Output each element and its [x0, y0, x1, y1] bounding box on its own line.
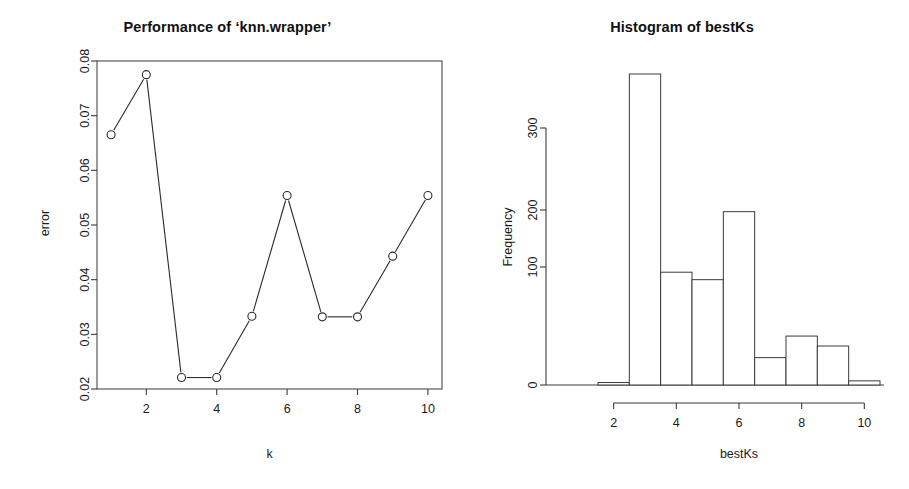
- histogram-bar: [786, 336, 817, 385]
- histogram-bar: [598, 383, 629, 385]
- y-tick-label: 0.03: [78, 322, 92, 346]
- y-tick-label: 0.05: [78, 213, 92, 237]
- x-tick-label: 2: [143, 402, 150, 416]
- series-segment: [289, 200, 321, 311]
- data-point-marker: [318, 313, 326, 321]
- y-tick-label: 0.06: [78, 158, 92, 182]
- y-tick-label: 0.08: [78, 49, 92, 73]
- histogram-panel: Histogram of bestKs Frequency bestKs 010…: [455, 0, 909, 489]
- series-segment: [114, 79, 144, 130]
- histogram-bar: [755, 358, 786, 385]
- x-tick-label: 8: [798, 416, 805, 430]
- left-plot-canvas: 0.020.030.040.050.060.070.08246810: [0, 0, 455, 489]
- x-tick-label: 6: [736, 416, 743, 430]
- data-point-marker: [213, 374, 221, 382]
- y-tick-label: 300: [526, 118, 540, 139]
- x-tick-label: 2: [610, 416, 617, 430]
- x-tick-label: 10: [421, 402, 435, 416]
- y-tick-label: 0.04: [78, 267, 92, 291]
- data-point-marker: [283, 191, 291, 199]
- x-tick-label: 6: [284, 402, 291, 416]
- histogram-bar: [817, 346, 848, 385]
- right-plot-canvas: 0100200300246810: [455, 0, 909, 489]
- data-point-marker: [142, 71, 150, 79]
- histogram-bar: [723, 212, 754, 385]
- histogram-bar: [661, 272, 692, 385]
- data-point-marker: [354, 313, 362, 321]
- y-tick-label: 100: [526, 257, 540, 278]
- y-tick-label: 0.02: [78, 377, 92, 401]
- histogram-bar: [692, 280, 723, 385]
- performance-plot-panel: Performance of ‘knn.wrapper’ error k 0.0…: [0, 0, 455, 489]
- data-point-marker: [389, 252, 397, 260]
- y-tick-label: 0.07: [78, 103, 92, 127]
- series-segment: [360, 261, 390, 313]
- series-segment: [395, 200, 425, 252]
- y-tick-label: 200: [526, 200, 540, 221]
- histogram-bar: [629, 74, 660, 385]
- data-point-marker: [248, 312, 256, 320]
- x-tick-label: 4: [213, 402, 220, 416]
- x-tick-label: 8: [354, 402, 361, 416]
- series-segment: [147, 80, 181, 373]
- series-segment: [253, 200, 285, 311]
- data-point-marker: [177, 374, 185, 382]
- series-segment: [219, 321, 249, 373]
- y-tick-label: 0: [526, 381, 540, 388]
- data-point-marker: [424, 191, 432, 199]
- data-point-marker: [107, 131, 115, 139]
- plot-frame: [97, 61, 442, 389]
- x-tick-label: 4: [673, 416, 680, 430]
- histogram-bar: [849, 381, 880, 385]
- x-tick-label: 10: [857, 416, 871, 430]
